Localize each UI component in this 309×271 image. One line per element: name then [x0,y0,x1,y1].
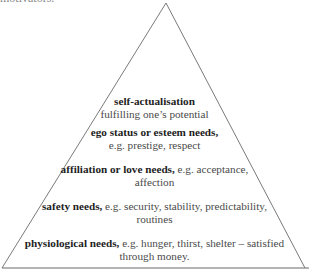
tier-desc-line2: routines [0,213,309,226]
tier-safety-needs: safety needs, e.g. security, stability, … [0,200,309,226]
tier-heading: safety needs, [42,200,102,212]
tier-love-needs: affiliation or love needs, e.g. acceptan… [0,163,309,189]
tier-desc: e.g. hunger, thirst, shelter – satisfied [119,237,284,249]
tier-heading: physiological needs, [25,237,120,249]
tier-heading: ego status or esteem needs, [91,126,219,138]
tier-desc: e.g. security, stability, predictability… [102,200,267,212]
tier-desc-line2: affection [0,176,309,189]
tier-physiological-needs: physiological needs, e.g. hunger, thirst… [0,237,309,263]
tier-desc-line2: e.g. prestige, respect [0,139,309,152]
tier-esteem-needs: ego status or esteem needs, e.g. prestig… [0,126,309,152]
tier-heading: affiliation or love needs, [61,163,175,175]
tier-desc-line2: through money. [0,250,309,263]
tier-desc: e.g. acceptance, [175,163,249,175]
tier-desc-line2: fulfilling one’s potential [0,108,309,121]
tier-heading: self-actualisation [114,95,195,107]
tier-self-actualisation: self-actualisation fulfilling one’s pote… [0,95,309,121]
